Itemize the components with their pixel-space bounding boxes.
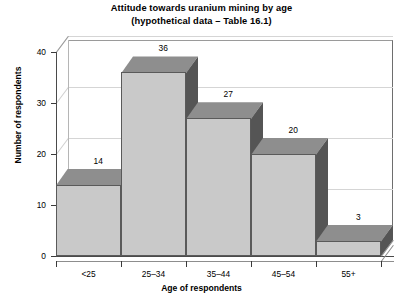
chart-subtitle: (hypothetical data – Table 16.1)	[0, 15, 403, 28]
grid-line	[68, 87, 393, 88]
x-axis-tick	[251, 261, 252, 267]
x-axis-tick-label: 45–54	[251, 269, 316, 279]
bar-value-label: 36	[141, 43, 187, 53]
bar-top-face	[121, 56, 198, 73]
x-axis-tick	[381, 261, 382, 267]
x-axis-tick-label: <25	[56, 269, 121, 279]
bar-value-label: 14	[76, 156, 122, 166]
bar-front-face	[251, 154, 316, 256]
bar-value-label: 27	[206, 89, 252, 99]
bar-value-label: 3	[336, 212, 382, 222]
y-axis-label: Number of respondents	[13, 35, 23, 195]
x-axis-tick	[316, 261, 317, 267]
x-axis-tick	[121, 261, 122, 267]
y-axis-tick-label: 20	[18, 149, 46, 159]
x-axis-tick-label: 55+	[316, 269, 381, 279]
bar-top-face	[251, 138, 328, 155]
wall-depth-edge	[56, 138, 69, 155]
chart-title-block: Attitude towards uranium mining by age (…	[0, 2, 403, 27]
x-axis-tick-label: 35–44	[186, 269, 251, 279]
y-axis-tick-label: 40	[18, 47, 46, 57]
wall-top-corner-edge	[56, 36, 69, 53]
y-axis-tick-label: 30	[18, 98, 46, 108]
wall-depth-edge	[56, 87, 69, 104]
x-axis-tick-label: 25–34	[121, 269, 186, 279]
floor-front-edge	[56, 261, 394, 262]
bar-top-face	[316, 225, 393, 242]
x-axis-line	[56, 256, 394, 257]
y-axis-tick-label: 10	[18, 200, 46, 210]
bar-front-face	[316, 241, 381, 256]
x-axis-tick	[186, 261, 187, 267]
chart-title: Attitude towards uranium mining by age	[0, 2, 403, 15]
bar-top-face	[186, 102, 263, 119]
y-axis-tick-label: 0	[18, 251, 46, 261]
x-axis-tick	[56, 261, 57, 267]
bar-value-label: 20	[271, 125, 317, 135]
x-axis-label: Age of respondents	[0, 283, 403, 293]
bar-front-face	[186, 118, 251, 256]
bar-front-face	[121, 72, 186, 256]
bar-4	[316, 225, 393, 256]
bar-chart: Attitude towards uranium mining by age (…	[0, 0, 403, 307]
grid-line	[68, 36, 393, 37]
bar-front-face	[56, 185, 121, 256]
